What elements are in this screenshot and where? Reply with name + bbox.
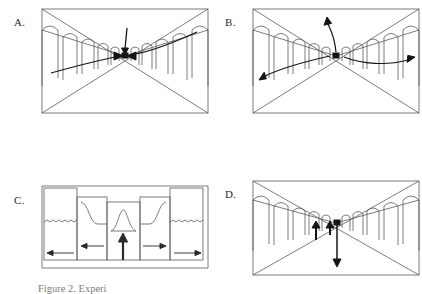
block-outer-right	[170, 188, 203, 260]
panel-d-label: D.	[225, 188, 236, 200]
panel-c-arrows	[47, 233, 201, 260]
arrow-outer-right-head	[195, 250, 201, 255]
wavy-level-line-left	[44, 220, 77, 222]
arrow-down-to-vp-shaft	[125, 28, 127, 49]
panel-a-left-arcade	[42, 26, 119, 86]
panel-d-vanishing-point	[334, 220, 340, 225]
figure-caption: Figure 2. Experi	[38, 283, 338, 294]
block-outer-left	[44, 188, 77, 260]
arrow-inner-left-head	[81, 243, 87, 248]
panel-d-right-arcade	[342, 196, 419, 251]
panel-d-left-arcade	[253, 196, 330, 251]
panel-b-vanishing-point	[333, 53, 339, 58]
panel-a-drawing	[41, 8, 211, 123]
panel-b-label: B.	[225, 16, 236, 28]
block-inner-right	[140, 197, 170, 260]
central-peak-curve	[111, 210, 136, 231]
panel-a-label: A.	[14, 16, 25, 28]
profile-curve-left	[81, 202, 107, 224]
arrow-center-up-head	[118, 233, 127, 242]
arrow-down-long-head	[333, 259, 341, 267]
panel-b-drawing	[252, 8, 422, 123]
arrow-outer-left-head	[47, 250, 53, 255]
panel-d-drawing	[252, 180, 422, 285]
panel-a-vanishing-point	[122, 53, 128, 58]
arrow-up-from-vp-head	[324, 17, 332, 25]
panel-d-arrows	[312, 220, 341, 267]
panel-c-drawing	[41, 180, 211, 280]
arrow-inner-right-head	[160, 243, 166, 248]
block-inner-left	[77, 197, 107, 260]
curve-sweep-through-vp-left	[51, 57, 115, 73]
curve-out-left-head	[259, 72, 266, 80]
profile-curve-right	[140, 202, 166, 224]
curve-out-right-head	[407, 55, 415, 62]
panel-a-right-arcade	[131, 26, 208, 86]
curve-out-left-shaft	[265, 56, 330, 76]
panel-c-label: C.	[14, 194, 25, 206]
wavy-level-line-right	[170, 220, 203, 222]
